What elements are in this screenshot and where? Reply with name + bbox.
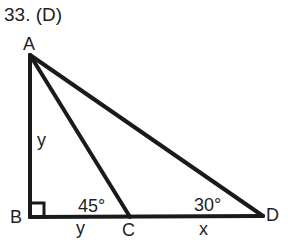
vertex-label-d: D <box>266 206 279 224</box>
side-label-cd: x <box>199 220 208 238</box>
triangle-diagram <box>0 0 288 249</box>
angle-label-d: 30° <box>194 196 221 214</box>
right-angle-marker <box>30 203 44 217</box>
side-label-bc: y <box>76 219 85 237</box>
segment-bd <box>30 216 263 217</box>
vertex-label-a: A <box>23 35 35 53</box>
side-label-ab: y <box>37 131 46 149</box>
vertex-label-b: B <box>10 208 22 226</box>
vertex-label-c: C <box>122 221 135 239</box>
angle-label-c: 45° <box>78 197 105 215</box>
segment-ad <box>30 55 263 216</box>
